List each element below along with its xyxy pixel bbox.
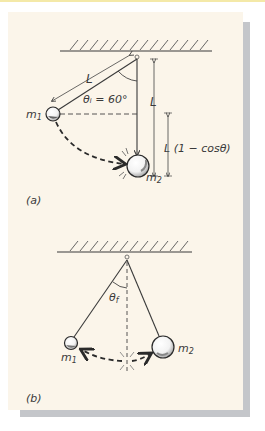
mass1-ball-b xyxy=(65,337,78,350)
caption-a: (a) xyxy=(26,194,41,207)
angle-arc-a xyxy=(118,71,137,81)
angle-arc-b xyxy=(113,282,127,288)
pivot-b xyxy=(125,255,129,259)
mass2-label-a: m2 xyxy=(146,171,162,185)
part-a: L θᵢ = 60° L L (1 − cosθ) m1 xyxy=(26,40,231,207)
string-length-label: L xyxy=(86,72,93,86)
mass2-ball-b xyxy=(152,336,174,358)
rebound-arrows xyxy=(82,350,122,361)
mass1-label-b: m1 xyxy=(61,351,77,365)
initial-angle-label: θᵢ = 60° xyxy=(83,93,127,106)
vertical-length-label: L xyxy=(150,95,157,109)
pivot-a xyxy=(135,55,139,59)
height-label: L (1 − cosθ) xyxy=(164,142,231,155)
string-m1-b xyxy=(74,260,127,337)
ceiling-a xyxy=(60,40,212,51)
final-angle-label: θf xyxy=(109,291,120,305)
caption-b: (b) xyxy=(26,392,42,405)
swing-trajectory-arrow xyxy=(56,122,124,164)
mass1-label-a: m1 xyxy=(26,108,42,122)
mass2-label-b: m2 xyxy=(178,342,194,356)
string-m2-b xyxy=(127,260,159,336)
mass1-ball-a xyxy=(46,107,60,121)
pendulum-collision-figure: L θᵢ = 60° L L (1 − cosθ) m1 xyxy=(0,0,265,431)
part-b: θf m1 m2 (b) xyxy=(26,241,194,405)
ceiling-b xyxy=(57,241,192,252)
